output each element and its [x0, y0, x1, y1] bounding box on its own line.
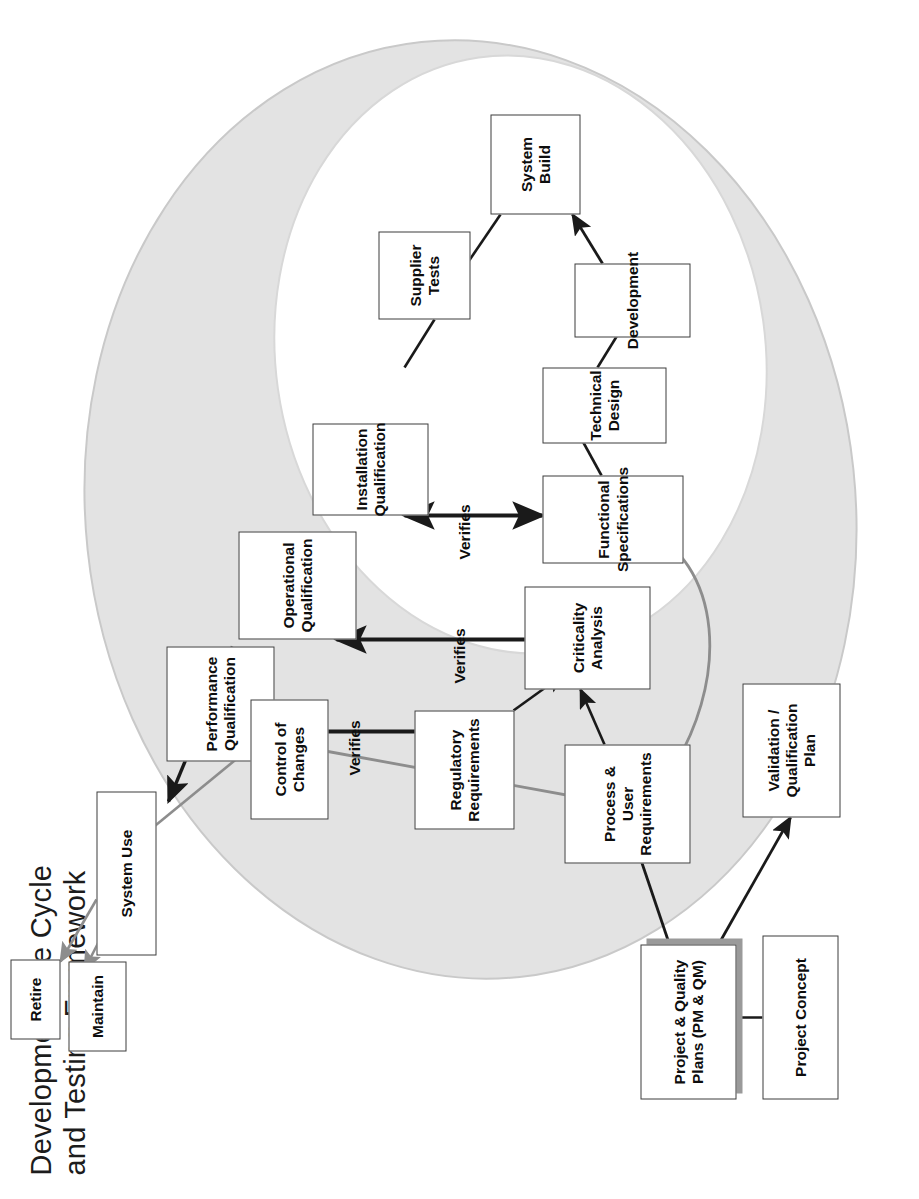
box-functional-specifications[interactable]: Functional Specifications — [542, 475, 683, 563]
connector-systemuse-retire — [60, 899, 96, 961]
box-control-of-changes[interactable]: Control of Changes — [250, 699, 328, 819]
connector-process-to-criticality — [580, 689, 604, 744]
box-project-concept[interactable]: Project Concept — [762, 935, 838, 1099]
verifies-label-iq: Verifies — [455, 504, 473, 559]
box-installation-qualification[interactable]: Installation Qualification — [312, 423, 428, 515]
diagram-rotation-wrapper: Development Life Cycle and Testing Frame… — [0, 0, 919, 1199]
box-system-build[interactable]: System Build — [490, 114, 580, 214]
verifies-label-oq: Verifies — [450, 628, 468, 683]
connector-development-to-build — [572, 214, 602, 263]
box-technical-design[interactable]: Technical Design — [542, 367, 666, 443]
diagram-canvas: Development Life Cycle and Testing Frame… — [0, 0, 919, 1199]
box-maintain[interactable]: Maintain — [68, 961, 126, 1051]
box-regulatory-requirements[interactable]: Regulatory Requirements — [414, 710, 514, 829]
connector-plans-to-validation — [718, 817, 790, 944]
box-process-user-requirements[interactable]: Process & User Requirements — [564, 744, 690, 863]
box-criticality-analysis[interactable]: Criticality Analysis — [524, 586, 650, 689]
box-development[interactable]: Development — [574, 263, 690, 337]
box-operational-qualification[interactable]: Operational Qualification — [238, 531, 356, 639]
box-supplier-tests[interactable]: Supplier Tests — [378, 231, 470, 319]
box-project-quality-plans[interactable]: Project & Quality Plans (PM & QM) — [640, 944, 736, 1099]
connector-suppliertests-to-iq — [404, 319, 434, 367]
connector-build-to-suppliertests — [468, 214, 500, 261]
verifies-label-pq: Verifies — [345, 720, 363, 775]
box-validation-qualification-plan[interactable]: Validation / Qualification Plan — [742, 683, 840, 817]
box-retire[interactable]: Retire — [10, 959, 60, 1039]
box-system-use[interactable]: System Use — [96, 791, 156, 955]
